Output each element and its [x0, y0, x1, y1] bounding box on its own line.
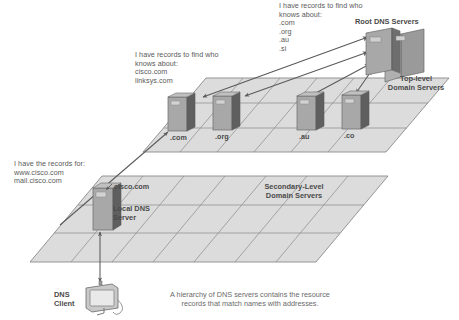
label-secondary-level-domain-servers: Secondary-Level Domain Servers	[230, 182, 358, 200]
secondary-label-cisco-com: cisco.com	[114, 182, 149, 191]
tld-server-org	[213, 92, 240, 130]
annotation-root-records: I have records to find who knows about: …	[279, 2, 363, 54]
annotation-local-records: I have the records for: www.cisco.com ma…	[14, 160, 85, 186]
tld-server-com	[168, 93, 195, 131]
annotation-tld-records: I have records to find who knows about: …	[135, 51, 219, 85]
tld-label-co: .co	[344, 131, 354, 140]
label-local-dns-server: Local DNS Server	[113, 204, 175, 222]
diagram-caption: A hierarchy of DNS servers contains the …	[133, 290, 367, 309]
label-top-level-domain-servers: Top-level Domain Servers	[374, 74, 458, 92]
label-root-dns-servers: Root DNS Servers	[355, 17, 459, 26]
tld-server-co	[342, 91, 369, 129]
tld-label-au: .au	[299, 132, 309, 141]
tld-label-org: .org	[215, 132, 229, 141]
tld-server-au	[297, 92, 324, 130]
tld-label-com: .com	[170, 133, 187, 142]
label-dns-client: DNS Client	[54, 290, 86, 308]
dns-client-monitor-icon	[86, 281, 123, 315]
dns-hierarchy-diagram: I have records to find who knows about: …	[0, 0, 459, 320]
